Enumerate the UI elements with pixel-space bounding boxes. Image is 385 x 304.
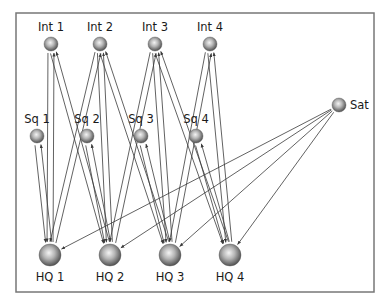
sphere-node-icon <box>134 129 148 143</box>
edge-int2-to-hq1 <box>50 52 95 242</box>
edge-hq2-to-int3 <box>116 53 156 242</box>
edge-sat-to-hq3 <box>180 111 333 246</box>
node-int3: Int 3 <box>142 20 168 51</box>
node-hq1: HQ 1 <box>36 244 65 284</box>
node-label: HQ 1 <box>36 270 65 284</box>
edge-int2-to-hq3 <box>100 53 163 243</box>
node-label: HQ 4 <box>216 270 245 284</box>
node-label: HQ 3 <box>156 270 185 284</box>
diagram-frame <box>16 13 374 292</box>
sphere-node-icon <box>332 98 346 112</box>
node-label: Sat <box>350 98 369 112</box>
node-int1: Int 1 <box>38 20 64 51</box>
edge-hq1-to-int1 <box>53 53 54 242</box>
node-sq1: Sq 1 <box>24 112 50 143</box>
network-diagram: Int 1Int 2Int 3Int 4Sq 1Sq 2Sq 3Sq 4SatH… <box>0 0 385 304</box>
edge-hq2-to-sq2 <box>92 144 111 241</box>
node-sq4: Sq 4 <box>183 112 209 143</box>
node-label: Sq 2 <box>74 112 100 126</box>
sphere-node-icon <box>219 244 241 266</box>
sphere-node-icon <box>189 129 203 143</box>
sphere-node-icon <box>80 129 94 143</box>
node-hq3: HQ 3 <box>156 244 185 284</box>
edge-hq1-to-int2 <box>56 53 101 243</box>
edge-hq2-to-int1 <box>56 52 109 242</box>
sphere-node-icon <box>39 244 61 266</box>
node-sat: Sat <box>332 98 369 112</box>
edge-sat-to-hq4 <box>238 112 334 244</box>
node-label: Int 3 <box>142 20 168 34</box>
node-label: HQ 2 <box>96 270 125 284</box>
node-sq2: Sq 2 <box>74 112 100 143</box>
edge-hq3-to-int4 <box>175 53 211 242</box>
sphere-node-icon <box>30 129 44 143</box>
node-label: Int 2 <box>87 20 113 34</box>
node-hq4: HQ 4 <box>216 244 245 284</box>
sphere-node-icon <box>93 37 107 51</box>
node-int2: Int 2 <box>87 20 113 51</box>
sphere-node-icon <box>203 37 217 51</box>
node-int4: Int 4 <box>197 20 223 51</box>
node-label: Int 4 <box>197 20 223 34</box>
edges-layer <box>35 51 334 249</box>
edge-int1-to-hq1 <box>47 53 48 242</box>
sphere-node-icon <box>99 244 121 266</box>
sphere-node-icon <box>44 37 58 51</box>
edge-sq1-to-hq1 <box>35 145 46 242</box>
node-hq2: HQ 2 <box>96 244 125 284</box>
edge-sat-to-hq2 <box>121 110 332 248</box>
edge-hq1-to-sq1 <box>41 145 52 242</box>
edge-int1-to-hq2 <box>51 53 104 243</box>
sphere-node-icon <box>159 244 181 266</box>
node-label: Sq 3 <box>128 112 154 126</box>
node-label: Sq 1 <box>24 112 50 126</box>
node-label: Sq 4 <box>183 112 209 126</box>
sphere-node-icon <box>148 37 162 51</box>
edge-int4-to-hq3 <box>169 52 205 241</box>
node-label: Int 1 <box>38 20 64 34</box>
edge-hq4-to-int3 <box>161 51 229 241</box>
